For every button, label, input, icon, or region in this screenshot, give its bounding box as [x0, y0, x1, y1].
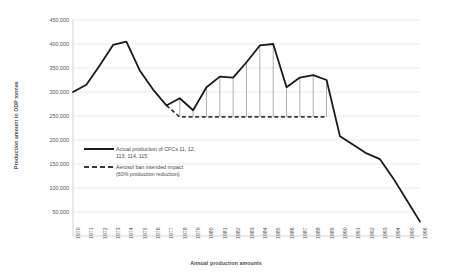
- cfc-production-line-chart: Production amount in ODP tonnes 450,0004…: [0, 0, 452, 279]
- legend-item-aerosol-label: Aerosol ban intended impact (60% product…: [116, 164, 183, 178]
- legend-markers: [0, 0, 452, 279]
- legend-item-actual-label: Actual production of CFCs 11, 12, 113, 1…: [116, 146, 195, 160]
